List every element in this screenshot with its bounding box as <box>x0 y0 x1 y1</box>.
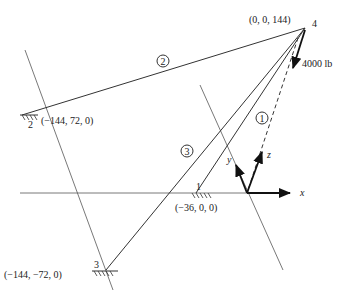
truss-diagram: 2 1 3 4 (0, 0, 144) 2 (−144, 72, 0) 3 (−… <box>0 0 347 303</box>
z-axis-label: z <box>266 149 271 160</box>
svg-text:3: 3 <box>185 146 190 157</box>
point-2-label: 2 <box>28 119 33 130</box>
member-1-line <box>196 28 305 193</box>
point-1-coords: (−36, 0, 0) <box>175 202 217 214</box>
member-3-line <box>106 28 305 270</box>
member-3-badge: 3 <box>181 145 193 157</box>
svg-text:2: 2 <box>161 56 166 67</box>
point-4-label: 4 <box>312 18 317 29</box>
member-2-badge: 2 <box>157 55 169 67</box>
point-2-coords: (−144, 72, 0) <box>41 115 93 127</box>
point-3-coords: (−144, −72, 0) <box>4 269 62 281</box>
point-1-label: 1 <box>196 181 201 192</box>
support-3-hatch <box>92 271 118 276</box>
x-axis-label: x <box>299 187 305 198</box>
member-2-line <box>22 28 305 115</box>
load-label: 4000 lb <box>302 58 332 69</box>
z-axis-arrow <box>247 152 262 193</box>
member-1-badge: 1 <box>256 112 268 124</box>
point-4-coords: (0, 0, 144) <box>249 14 291 26</box>
y-axis-label: y <box>226 154 232 165</box>
point-3-label: 3 <box>94 259 99 270</box>
y-axis-arrow <box>236 165 247 193</box>
svg-text:1: 1 <box>260 113 265 124</box>
support-1-hatch <box>192 193 211 198</box>
base-line-2-3 <box>25 50 113 290</box>
